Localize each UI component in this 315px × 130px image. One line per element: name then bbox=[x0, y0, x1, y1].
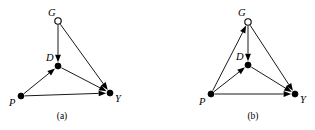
node-marker-d bbox=[55, 63, 61, 69]
edge-p-to-g-arrowhead bbox=[240, 26, 246, 34]
node-b-G: G bbox=[238, 7, 251, 25]
edge-p-to-d-line bbox=[214, 72, 239, 92]
node-label-g: G bbox=[48, 7, 56, 18]
node-marker-y bbox=[292, 91, 298, 97]
node-marker-d bbox=[245, 62, 251, 68]
edge-g-to-y-line bbox=[250, 25, 289, 84]
edge-g-to-y-line bbox=[60, 24, 103, 84]
node-label-y: Y bbox=[115, 93, 122, 104]
edge-p-to-y bbox=[25, 90, 106, 96]
edge-g-to-d-arrowhead bbox=[55, 55, 61, 63]
panel-a: GDPY(a) bbox=[8, 7, 122, 122]
edge-p-to-y-arrowhead bbox=[284, 91, 292, 97]
edge-p-to-d-arrowhead bbox=[237, 67, 245, 74]
node-marker-p bbox=[208, 91, 214, 97]
node-label-p: P bbox=[8, 97, 16, 108]
node-b-Y: Y bbox=[292, 91, 307, 105]
node-label-g: G bbox=[238, 7, 246, 18]
node-a-Y: Y bbox=[107, 90, 122, 104]
edge-p-to-d-line bbox=[24, 73, 49, 93]
edge-g-to-y bbox=[60, 24, 107, 90]
node-marker-p bbox=[18, 93, 24, 99]
edge-g-to-d bbox=[55, 25, 61, 62]
node-label-d: D bbox=[45, 52, 54, 63]
node-marker-g bbox=[245, 19, 251, 25]
node-label-y: Y bbox=[300, 94, 307, 105]
edge-p-to-d bbox=[24, 68, 55, 93]
panel-b: GDPY(b) bbox=[198, 7, 307, 122]
edge-g-to-y bbox=[250, 25, 293, 90]
edge-p-to-y bbox=[215, 91, 291, 97]
node-marker-g bbox=[55, 18, 61, 24]
node-b-P: P bbox=[198, 91, 214, 107]
node-label-p: P bbox=[198, 96, 206, 107]
node-a-P: P bbox=[8, 93, 24, 108]
edge-g-to-d bbox=[245, 26, 251, 61]
edge-g-to-d-arrowhead bbox=[245, 54, 251, 62]
node-a-G: G bbox=[48, 7, 61, 24]
edge-p-to-y-arrowhead bbox=[99, 90, 107, 96]
panel-caption-a: (a) bbox=[57, 111, 68, 122]
edge-p-to-y-line bbox=[25, 93, 99, 95]
panel-caption-b: (b) bbox=[247, 111, 258, 122]
node-marker-y bbox=[107, 90, 113, 96]
diagram-canvas: GDPY(a)GDPY(b) bbox=[0, 0, 315, 130]
edge-p-to-d-arrowhead bbox=[47, 68, 55, 75]
node-label-d: D bbox=[235, 51, 244, 62]
causal-diagram-figure: GDPY(a)GDPY(b) bbox=[0, 0, 315, 130]
edge-d-to-y-line bbox=[251, 67, 285, 88]
